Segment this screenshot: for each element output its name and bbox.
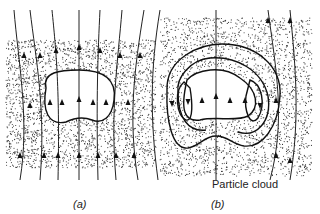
annotation-particle-cloud: Particle cloud	[212, 178, 278, 190]
bubble-interiors	[45, 70, 256, 123]
caption-panel-a: (a)	[73, 198, 86, 210]
caption-panel-b: (b)	[211, 198, 224, 210]
